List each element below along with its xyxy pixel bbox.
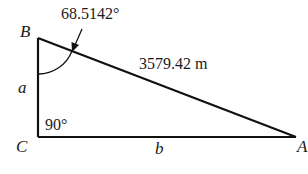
- vertex-c-label: C: [16, 137, 28, 156]
- side-a-label: a: [18, 78, 27, 97]
- vertex-a-label: A: [296, 137, 308, 156]
- hypotenuse-label: 3579.42 m: [139, 55, 208, 72]
- hypotenuse-line: [38, 38, 296, 137]
- vertex-b-label: B: [20, 22, 31, 41]
- angle-b-arc: [38, 51, 72, 74]
- triangle-diagram: 68.5142° B 3579.42 m a 90° C b A: [0, 0, 308, 174]
- angle-c-label: 90°: [45, 116, 67, 133]
- angle-b-label: 68.5142°: [61, 5, 119, 22]
- side-b-label: b: [155, 139, 164, 158]
- angle-b-arrow-shaft: [75, 29, 82, 45]
- angle-b-arrow-head: [72, 42, 80, 52]
